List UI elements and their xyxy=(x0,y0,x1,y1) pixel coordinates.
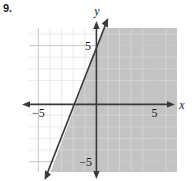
problem-number: 9. xyxy=(3,3,12,14)
y-axis-label: y xyxy=(93,4,100,18)
x-axis-left-arrow xyxy=(22,101,30,107)
x-tick-label-neg5: −5 xyxy=(32,106,45,120)
coordinate-plane: −5 5 5 −5 x y xyxy=(0,0,192,181)
x-tick-label-5: 5 xyxy=(151,106,157,120)
graph-figure: 9. xyxy=(0,0,192,181)
y-tick-label-neg5: −5 xyxy=(79,155,92,169)
y-tick-label-5: 5 xyxy=(85,39,91,53)
y-axis-down-arrow xyxy=(93,171,99,179)
x-axis-label: x xyxy=(178,98,185,112)
y-axis-up-arrow xyxy=(93,21,99,29)
